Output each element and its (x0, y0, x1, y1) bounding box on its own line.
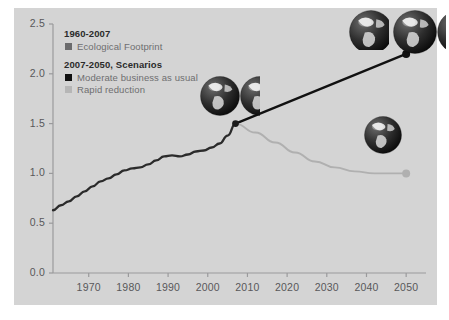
legend-swatch-moderate-business-as-usual (65, 74, 72, 81)
y-tick-label: 0.5 (15, 216, 45, 228)
x-tick-label: 2030 (307, 281, 347, 293)
x-tick-label: 2040 (346, 281, 386, 293)
y-tick-label: 2.5 (15, 17, 45, 29)
legend-swatch-ecological-footprint (65, 43, 72, 50)
y-tick-label: 1.0 (15, 166, 45, 178)
globe-icon (364, 116, 402, 154)
legend-section-2-title: 2007-2050, Scenarios (64, 59, 254, 70)
globes-2050-business-as-usual (349, 10, 446, 54)
y-tick-label: 2.0 (15, 67, 45, 79)
x-tick-label: 1980 (108, 281, 148, 293)
x-tick-label: 1990 (148, 281, 188, 293)
legend-item-ecological-footprint: Ecological Footprint (65, 41, 254, 52)
legend-swatch-rapid-reduction (65, 86, 72, 93)
globe-icon (349, 10, 393, 54)
branch-node-2007 (232, 120, 239, 127)
y-tick-label: 1.5 (15, 117, 45, 129)
x-tick-label: 2010 (227, 281, 267, 293)
x-tick-label: 2000 (188, 281, 228, 293)
y-tick-label: 0.0 (15, 266, 45, 278)
x-tick-label: 2020 (267, 281, 307, 293)
x-tick-label: 1970 (69, 281, 109, 293)
series-line (236, 54, 407, 124)
globes-2050-rapid-reduction (364, 116, 402, 154)
series-line (53, 124, 236, 211)
globe-icon (393, 10, 437, 54)
series-endpoint-marker (402, 169, 410, 177)
chart-legend: 1960-2007 Ecological Footprint 2007-2050… (64, 28, 254, 96)
legend-label-ecological-footprint: Ecological Footprint (77, 41, 162, 52)
figure: 0.00.51.01.52.02.5 197019801990200020102… (0, 0, 449, 320)
legend-label-moderate-business-as-usual: Moderate business as usual (77, 72, 198, 83)
legend-label-rapid-reduction: Rapid reduction (77, 84, 145, 95)
globe-icon (437, 10, 446, 54)
chart-panel: 0.00.51.01.52.02.5 197019801990200020102… (14, 8, 437, 305)
legend-item-moderate-business-as-usual: Moderate business as usual (65, 72, 254, 83)
legend-item-rapid-reduction: Rapid reduction (65, 84, 254, 95)
legend-section-1-title: 1960-2007 (64, 28, 254, 39)
x-tick-label: 2050 (386, 281, 426, 293)
